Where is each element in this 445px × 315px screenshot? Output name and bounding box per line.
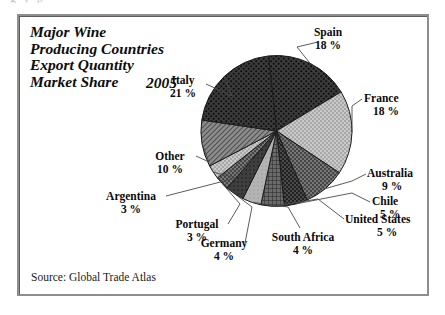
slice-label-south-africa: South Africa 4 % — [266, 231, 340, 256]
slice-label-france: France 18 % — [364, 92, 399, 117]
slice-label-united-states: United States 5 % — [345, 213, 411, 238]
slice-label-australia: Australia 9 % — [367, 167, 413, 192]
slice-label-italy: Italy 21 % — [163, 74, 203, 99]
figure-canvas: g y p Major Wine Producing Countries Exp… — [0, 0, 445, 315]
pie-slices — [201, 56, 352, 207]
slice-label-spain: Spain 18 % — [300, 26, 356, 51]
source-note: Source: Global Trade Atlas — [31, 271, 156, 283]
slice-label-portugal: Portugal 3 % — [170, 218, 224, 243]
pie-slice-italy — [202, 56, 277, 131]
pie-chart — [0, 0, 445, 315]
slice-label-argentina: Argentina 3 % — [100, 190, 162, 215]
slice-label-other: Other 10 % — [146, 150, 194, 175]
leader-line-france — [352, 99, 362, 133]
